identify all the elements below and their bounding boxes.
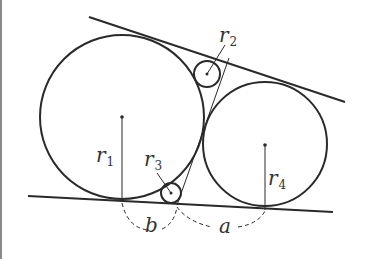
label-r3: r3 <box>144 147 162 173</box>
label-r4: r4 <box>268 166 287 192</box>
label-b: b <box>145 213 158 237</box>
diagram-frame: r1 r2 r3 r4 b a <box>0 0 371 259</box>
label-a: a <box>219 214 231 238</box>
label-r1: r1 <box>96 143 114 169</box>
upper-tangent-line <box>89 17 345 102</box>
leader-line-2 <box>207 45 225 74</box>
geometry-diagram: r1 r2 r3 r4 b a <box>0 0 371 259</box>
label-r2: r2 <box>219 23 237 49</box>
